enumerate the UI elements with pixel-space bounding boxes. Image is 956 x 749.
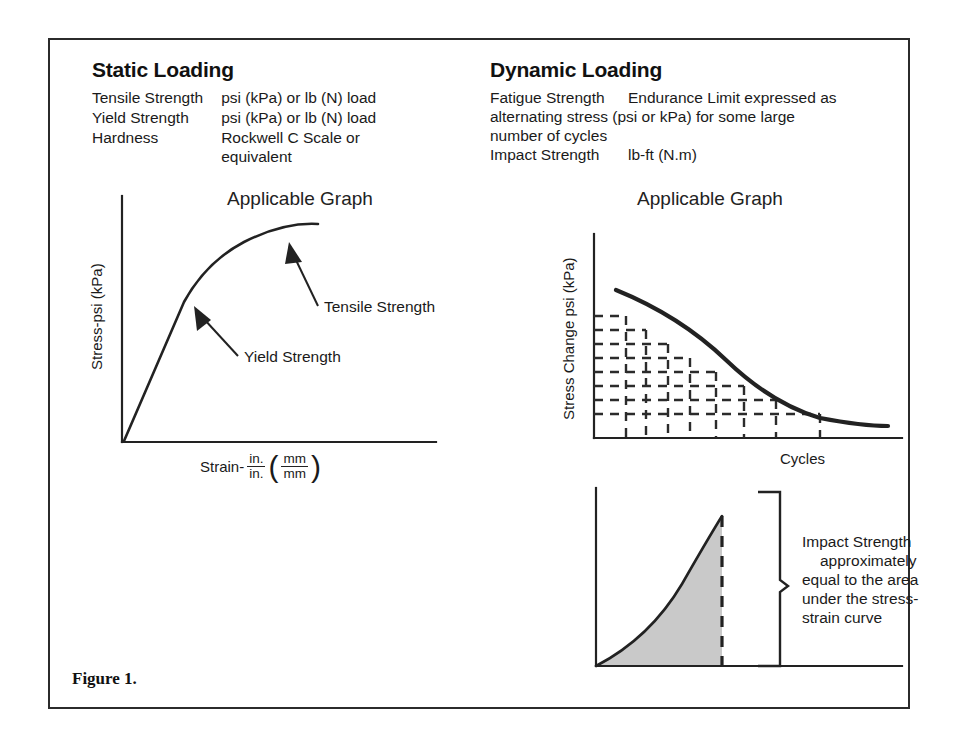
table-row: Tensile Strength psi (kPa) or lb (N) loa… <box>92 88 376 108</box>
static-loading-title: Static Loading <box>92 58 452 82</box>
note-line: approximately <box>802 551 956 570</box>
list-item: Fatigue StrengthEndurance Limit expresse… <box>490 88 890 107</box>
tensile-strength-arrow-icon <box>285 242 302 264</box>
spec-value: psi (kPa) or lb (N) load <box>221 88 376 108</box>
spec-term: Tensile Strength <box>92 88 221 108</box>
strain-fraction-denominator: in. <box>247 467 265 481</box>
yield-strength-label: Yield Strength <box>244 348 341 365</box>
note-line: Impact Strength <box>802 533 911 550</box>
fatigue-grid-lines <box>594 316 820 438</box>
tensile-strength-leader <box>295 258 318 306</box>
list-item: alternating stress (psi or kPa) for some… <box>490 107 890 126</box>
table-row: Hardness Rockwell C Scale or equivalent <box>92 128 376 167</box>
figure-frame: Static Loading Tensile Strength psi (kPa… <box>48 38 910 709</box>
spec-value: lb-ft (N.m) <box>628 146 697 163</box>
spec-value: Endurance Limit expressed as <box>628 89 837 106</box>
impact-strength-brace <box>758 492 788 666</box>
note-line: under the stress- <box>802 589 956 608</box>
spec-value: Rockwell C Scale or equivalent <box>221 128 376 167</box>
fatigue-svg: Stress Change psi (kPa) Cycles <box>490 220 910 490</box>
note-line: equal to the area <box>802 570 956 589</box>
cycles-axis-label: Cycles <box>780 450 825 467</box>
tensile-strength-label: Tensile Strength <box>324 298 435 315</box>
dynamic-loading-panel: Dynamic Loading Fatigue StrengthEnduranc… <box>490 58 890 164</box>
fatigue-graph-title: Applicable Graph <box>570 188 850 210</box>
note-line: strain curve <box>802 608 956 627</box>
fatigue-curve <box>616 290 888 426</box>
strain-axis-label: Strain- in. in. ( mm mm ) <box>200 452 321 481</box>
stress-strain-graph: Tensile Strength Yield Strength Stress-p… <box>56 180 456 450</box>
strain-unit-fraction: in. in. <box>247 452 265 481</box>
strain-fraction-numerator: in. <box>247 452 265 467</box>
spec-term: Yield Strength <box>92 108 221 128</box>
spec-term: Fatigue Strength <box>490 88 628 107</box>
yield-strength-leader <box>204 319 238 356</box>
stress-strain-svg: Tensile Strength Yield Strength Stress-p… <box>56 180 456 450</box>
spec-term: Impact Strength <box>490 145 628 164</box>
strain-metric-fraction: mm mm <box>281 452 308 481</box>
spec-value: number of cycles <box>490 127 607 144</box>
strain-axis-prefix: Strain- <box>200 458 244 475</box>
spec-value: psi (kPa) or lb (N) load <box>221 108 376 128</box>
metric-fraction-denominator: mm <box>281 467 308 481</box>
spec-term: Hardness <box>92 128 221 167</box>
dynamic-loading-spec-list: Fatigue StrengthEndurance Limit expresse… <box>490 88 890 164</box>
static-loading-spec-table: Tensile Strength psi (kPa) or lb (N) loa… <box>92 88 376 167</box>
figure-caption: Figure 1. <box>72 669 137 689</box>
impact-strength-note: Impact Strength approximately equal to t… <box>802 532 956 627</box>
metric-fraction-numerator: mm <box>281 452 308 467</box>
spec-value: alternating stress (psi or kPa) for some… <box>490 108 795 125</box>
paren-close: ) <box>311 453 321 481</box>
paren-open: ( <box>268 453 278 481</box>
fatigue-graph: Stress Change psi (kPa) Cycles <box>490 220 910 490</box>
static-loading-panel: Static Loading Tensile Strength psi (kPa… <box>92 58 452 167</box>
stress-axis-label: Stress-psi (kPa) <box>88 263 105 370</box>
list-item: Impact Strengthlb-ft (N.m) <box>490 145 890 164</box>
dynamic-loading-title: Dynamic Loading <box>490 58 890 82</box>
impact-area-shading <box>596 516 722 666</box>
stress-change-axis-label: Stress Change psi (kPa) <box>560 257 577 420</box>
yield-strength-arrow-icon <box>194 306 211 331</box>
list-item: number of cycles <box>490 126 890 145</box>
table-row: Yield Strength psi (kPa) or lb (N) load <box>92 108 376 128</box>
